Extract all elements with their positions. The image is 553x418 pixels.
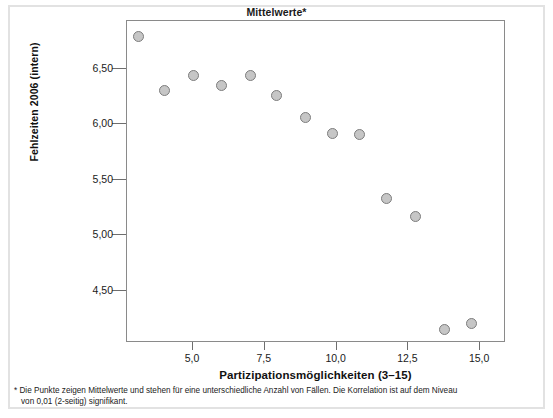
y-axis-tick-label: 5,50 — [67, 173, 113, 185]
x-axis-tick-label: 5,0 — [162, 352, 222, 364]
data-point — [381, 193, 392, 204]
y-axis-tick-label: 5,00 — [67, 228, 113, 240]
data-point — [133, 31, 144, 42]
x-axis-title: Partizipationsmöglichkeiten (3–15) — [126, 369, 505, 381]
data-point — [410, 211, 421, 222]
y-axis-tick — [112, 179, 126, 180]
footnote: * Die Punkte zeigen Mittelwerte und steh… — [14, 385, 536, 407]
x-axis-tick-label: 10,0 — [306, 352, 366, 364]
data-point — [216, 80, 227, 91]
y-axis-title: Fehlzeiten 2006 (intern) — [28, 2, 40, 202]
chart-figure: Mittelwerte* Fehlzeiten 2006 (intern) 6,… — [0, 0, 553, 418]
x-axis-tick — [479, 342, 480, 350]
data-point — [439, 324, 450, 335]
footnote-line-1: * Die Punkte zeigen Mittelwerte und steh… — [14, 385, 536, 396]
data-point — [245, 70, 256, 81]
data-point — [354, 129, 365, 140]
x-axis-tick-label: 7,5 — [234, 352, 294, 364]
data-point — [188, 70, 199, 81]
data-point — [300, 112, 311, 123]
x-axis-tick-label: 12,5 — [377, 352, 437, 364]
data-point — [466, 318, 477, 329]
y-axis-tick — [112, 234, 126, 235]
y-axis-tick — [112, 290, 126, 291]
data-point — [271, 90, 282, 101]
data-points-layer — [127, 21, 504, 341]
data-point — [159, 85, 170, 96]
x-axis-tick — [336, 342, 337, 350]
chart-title: Mittelwerte* — [0, 6, 553, 18]
data-point — [327, 128, 338, 139]
y-axis-tick-label: 6,50 — [67, 62, 113, 74]
y-axis-tick — [112, 68, 126, 69]
x-axis-tick-label: 15,0 — [449, 352, 509, 364]
plot-area — [126, 20, 505, 342]
y-axis-tick-label: 4,50 — [67, 284, 113, 296]
x-axis-tick — [264, 342, 265, 350]
x-axis-tick — [407, 342, 408, 350]
y-axis-tick-label: 6,00 — [67, 117, 113, 129]
x-axis-tick — [192, 342, 193, 350]
y-axis-tick — [112, 123, 126, 124]
footnote-line-2: von 0,01 (2-seitig) signifikant. — [14, 396, 536, 407]
